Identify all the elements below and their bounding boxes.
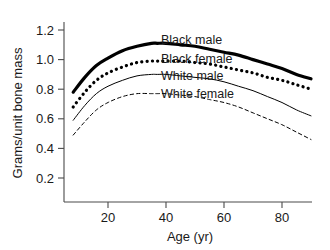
x-axis-title: Age (yr)	[167, 229, 213, 244]
y-tick-label-0.2: 0.2	[36, 171, 54, 186]
series-label-black-female: Black female	[161, 52, 233, 66]
x-tick-label-60: 60	[217, 210, 231, 225]
y-tick-label-0.4: 0.4	[36, 141, 54, 156]
series-label-white-male: White male	[161, 69, 224, 83]
y-tick-label-1.2: 1.2	[36, 23, 54, 38]
x-tick-label-40: 40	[159, 210, 173, 225]
y-axis-title: Grams/unit bone mass	[10, 47, 25, 178]
y-tick-label-0.8: 0.8	[36, 82, 54, 97]
chart-figure: 1.2 1.0 0.8 0.6 0.4 0.2 20 40 60 80 Age …	[0, 0, 330, 250]
series-label-black-male: Black male	[161, 33, 222, 47]
x-tick-label-20: 20	[101, 210, 115, 225]
bone-mass-line-chart: 1.2 1.0 0.8 0.6 0.4 0.2 20 40 60 80 Age …	[0, 0, 330, 250]
x-tick-label-80: 80	[275, 210, 289, 225]
y-tick-label-0.6: 0.6	[36, 111, 54, 126]
series-label-white-female: White female	[161, 87, 234, 101]
y-tick-label-1.0: 1.0	[36, 52, 54, 67]
